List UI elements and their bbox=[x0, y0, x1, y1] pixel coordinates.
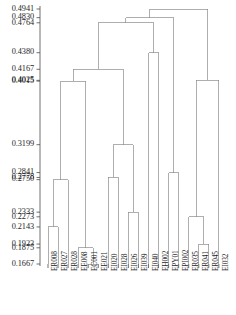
x-axis-leaf-label: EI026 bbox=[131, 254, 138, 271]
x-axis-leaf-label: EI028 bbox=[121, 254, 128, 271]
x-axis-leaf-label: EI020 bbox=[111, 254, 118, 271]
x-axis-leaf-label: EC001 bbox=[91, 251, 98, 271]
x-axis-leaf-label: EI032 bbox=[222, 254, 229, 271]
x-axis-leaf-label: ER008 bbox=[51, 251, 58, 271]
x-axis-leaf-label: ER028 bbox=[71, 251, 78, 271]
x-axis-leaf-label: ER035 bbox=[192, 251, 199, 271]
x-axis-leaf-label: EE021 bbox=[101, 252, 108, 271]
x-axis-leaf-label: ER045 bbox=[212, 251, 219, 271]
x-axis-leaf-label: EPY01 bbox=[172, 250, 179, 271]
x-axis-leaf-label: EE008 bbox=[81, 252, 88, 271]
dendrogram-figure: 0.49410.48300.47640.43800.41670.40250.40… bbox=[0, 0, 236, 315]
x-axis-leaf-label: EI039 bbox=[141, 254, 148, 271]
x-axis-leaf-label: ER041 bbox=[202, 251, 209, 271]
x-axis-leaf-label: EPI002 bbox=[182, 250, 189, 271]
x-axis-leaf-label: EI040 bbox=[152, 254, 159, 271]
x-axis-leaf-labels: ER008ER027ER028EE008EC001EE021EI020EI028… bbox=[0, 0, 236, 315]
x-axis-leaf-label: ER027 bbox=[61, 251, 68, 271]
x-axis-leaf-label: EH002 bbox=[162, 251, 169, 271]
